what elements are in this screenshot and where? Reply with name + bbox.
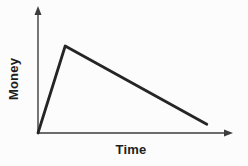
x-axis-arrow-icon	[224, 130, 233, 137]
y-axis-label: Money	[6, 58, 21, 100]
y-axis-arrow-icon	[35, 6, 42, 15]
series-line-money-over-time	[38, 46, 207, 133]
money-time-chart: Money Time	[0, 0, 248, 166]
x-axis-label: Time	[116, 142, 147, 157]
